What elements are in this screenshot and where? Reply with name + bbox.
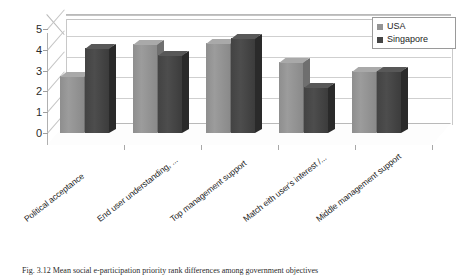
x-axis-tick-mark [124, 145, 125, 150]
legend-item-singapore: Singapore [376, 33, 452, 46]
chart-legend: USA Singapore [372, 17, 456, 49]
bar-chart: 012345 Political acceptanceEnd user unde… [0, 0, 466, 278]
x-axis-category-label: Political acceptance [22, 171, 86, 224]
x-axis-tick-mark [201, 145, 202, 150]
legend-label-usa: USA [387, 22, 406, 31]
x-axis-tick-mark [355, 145, 356, 150]
legend-swatch-usa [377, 24, 383, 30]
legend-label-singapore: Singapore [387, 35, 428, 44]
legend-swatch-singapore [377, 37, 383, 43]
x-axis-category-label: Match eith user's interest /... [241, 153, 328, 224]
x-axis-category-label: Middle management support [314, 151, 403, 224]
legend-item-usa: USA [376, 20, 452, 33]
x-axis-category-label: Top management support [168, 158, 248, 224]
x-axis-tick-mark [278, 145, 279, 150]
x-axis-category-label: End user understanding, ... [95, 155, 179, 224]
x-axis-tick-mark [432, 145, 433, 150]
